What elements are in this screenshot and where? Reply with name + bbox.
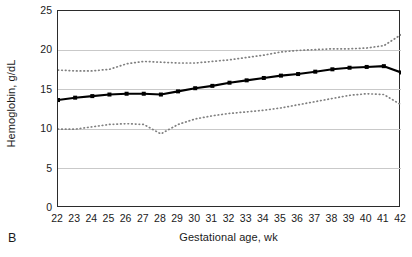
data-point-28 — [159, 93, 163, 97]
x-tick-label-38: 38 — [326, 212, 338, 224]
data-point-32 — [228, 81, 232, 85]
data-point-41 — [382, 64, 386, 68]
x-tick-label-29: 29 — [171, 212, 183, 224]
data-point-34 — [262, 76, 266, 80]
data-point-42 — [399, 70, 401, 74]
data-point-30 — [193, 86, 197, 90]
data-point-26 — [125, 92, 129, 96]
data-point-38 — [330, 67, 334, 71]
y-axis-tick-labels: 0510152025 — [22, 0, 52, 257]
x-tick-label-41: 41 — [377, 212, 389, 224]
x-tick-label-31: 31 — [206, 212, 218, 224]
y-tick-label-5: 5 — [46, 162, 52, 174]
y-tick-label-15: 15 — [40, 83, 52, 95]
x-tick-label-24: 24 — [85, 212, 97, 224]
data-point-37 — [313, 70, 317, 74]
x-tick-label-35: 35 — [274, 212, 286, 224]
data-point-36 — [296, 72, 300, 76]
x-tick-label-28: 28 — [154, 212, 166, 224]
hemoglobin-gestational-age-chart: Hemoglobin, g/dL 0510152025 222324252627… — [0, 0, 412, 257]
x-tick-label-30: 30 — [188, 212, 200, 224]
series-lower-percentile — [58, 94, 401, 134]
data-point-33 — [245, 78, 249, 82]
plot-area — [57, 10, 400, 207]
y-tick-label-10: 10 — [40, 122, 52, 134]
x-tick-label-22: 22 — [51, 212, 63, 224]
data-point-27 — [142, 92, 146, 96]
y-axis-title: Hemoglobin, g/dL — [0, 0, 22, 207]
x-tick-label-32: 32 — [223, 212, 235, 224]
data-point-39 — [348, 66, 352, 70]
x-axis-tick-labels: 2223242526272829303132333435363738394041… — [57, 212, 400, 228]
data-point-29 — [176, 89, 180, 93]
x-tick-label-42: 42 — [394, 212, 406, 224]
x-tick-label-34: 34 — [257, 212, 269, 224]
panel-label: B — [8, 231, 17, 245]
data-point-23 — [73, 96, 77, 100]
data-point-40 — [365, 65, 369, 69]
x-tick-label-36: 36 — [291, 212, 303, 224]
x-tick-label-40: 40 — [360, 212, 372, 224]
plot-svg — [58, 11, 401, 208]
data-series-layer — [58, 35, 401, 134]
series-upper-percentile — [58, 35, 401, 71]
y-tick-label-20: 20 — [40, 43, 52, 55]
x-axis-title: Gestational age, wk — [57, 231, 400, 243]
x-tick-label-37: 37 — [308, 212, 320, 224]
data-point-22 — [58, 98, 60, 102]
data-point-35 — [279, 74, 283, 78]
x-tick-label-26: 26 — [120, 212, 132, 224]
x-tick-label-27: 27 — [137, 212, 149, 224]
x-tick-label-39: 39 — [343, 212, 355, 224]
x-tick-label-33: 33 — [240, 212, 252, 224]
data-point-25 — [107, 93, 111, 97]
x-tick-label-25: 25 — [103, 212, 115, 224]
x-tick-label-23: 23 — [68, 212, 80, 224]
data-point-31 — [210, 84, 214, 88]
y-tick-label-25: 25 — [40, 4, 52, 16]
data-point-24 — [90, 94, 94, 98]
